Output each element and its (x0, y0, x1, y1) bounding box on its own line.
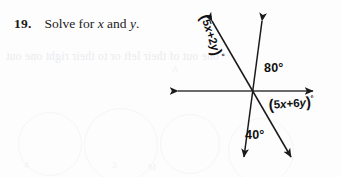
scan-smudge-circle (84, 108, 158, 177)
problem-instruction: Solve for (44, 16, 94, 31)
problem-conjunction: and (107, 16, 127, 31)
angle-label-40: 40° (245, 128, 265, 142)
faint-mark: 3 (112, 160, 117, 170)
diagram-svg (165, 0, 341, 177)
angle-label-80: 80° (264, 61, 284, 75)
angle-diagram (165, 0, 341, 177)
scan-smudge-circle (18, 112, 82, 176)
problem-statement: 19.Solve for x and y. (14, 16, 139, 32)
faint-mark: 4 (24, 160, 29, 170)
problem-variable-x: x (98, 16, 104, 31)
problem-terminator: . (136, 16, 139, 31)
problem-number: 19. (14, 16, 31, 31)
faint-mark: M (148, 162, 156, 172)
degree-symbol: ° (310, 94, 314, 103)
angle-label-5x-plus-6y: (5x+6y)° (268, 93, 315, 113)
scanned-worksheet-page: one out of their left or to their right … (0, 0, 341, 177)
